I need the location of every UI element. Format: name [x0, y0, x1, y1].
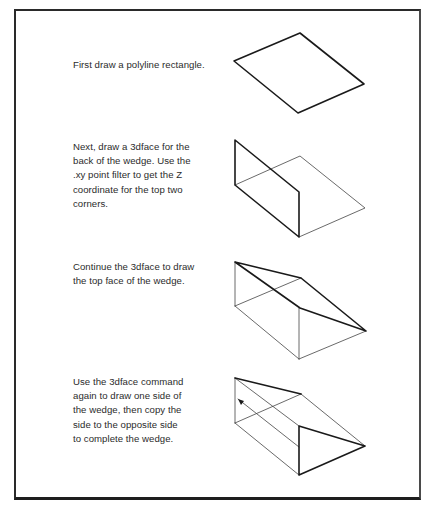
back-face-outline: [235, 140, 299, 237]
figure-back-face: [235, 140, 365, 237]
back-side-top-edge: [235, 378, 301, 394]
figure-polyline-rectangle: [234, 33, 364, 113]
figure-top-face: [235, 262, 366, 359]
base-left-edge: [235, 423, 299, 475]
top-face-outline: [235, 262, 366, 331]
ridge-right-edge: [301, 394, 365, 446]
base-back-edge: [235, 394, 301, 423]
base-front-edge: [299, 331, 366, 359]
base-left-edge: [235, 306, 299, 359]
copy-path-line: [238, 399, 299, 447]
base-outline: [235, 156, 365, 237]
front-side-triangle: [299, 426, 365, 475]
figures-canvas: [0, 0, 428, 505]
copy-arrow-icon: [238, 399, 244, 405]
figure-completed-wedge: [235, 378, 365, 475]
rectangle-outline: [234, 33, 364, 113]
